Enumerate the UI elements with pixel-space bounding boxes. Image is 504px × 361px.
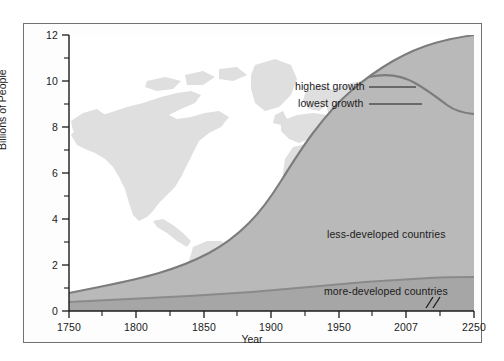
axis-break-marker (426, 297, 440, 308)
y-tick-label-12: 12 (28, 29, 58, 41)
y-tick-label-2: 2 (28, 259, 58, 271)
x-tick-label-1750: 1750 (44, 321, 94, 333)
y-major-ticks (62, 35, 69, 311)
x-tick-label-1950: 1950 (314, 321, 364, 333)
annotation-lowest-growth: lowest growth (298, 97, 364, 109)
x-major-ticks (69, 311, 474, 318)
y-tick-label-10: 10 (28, 75, 58, 87)
y-axis-title: Billions of People (0, 69, 8, 150)
x-tick-label-1850: 1850 (179, 321, 229, 333)
annotation-more-developed-countries: more-developed countries (324, 285, 448, 297)
x-tick-label-2250: 2250 (449, 321, 499, 333)
annotation-less-developed-countries: less-developed countries (327, 228, 446, 240)
y-tick-label-8: 8 (28, 121, 58, 133)
x-tick-label-1900: 1900 (246, 321, 296, 333)
axes-svg (0, 0, 504, 361)
x-tick-label-2007: 2007 (381, 321, 431, 333)
figure-container: 12 10 8 6 4 2 0 1750 1800 1850 1900 1950… (0, 0, 504, 361)
y-tick-label-4: 4 (28, 213, 58, 225)
x-axis-title: Year (0, 333, 504, 345)
y-tick-label-0: 0 (28, 305, 58, 317)
y-tick-label-6: 6 (28, 167, 58, 179)
annotation-highest-growth: highest growth (295, 80, 365, 92)
x-tick-label-1800: 1800 (111, 321, 161, 333)
